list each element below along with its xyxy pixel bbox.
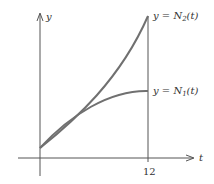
tick-12: 12 [143, 166, 156, 177]
label-n2: y = N2(t) [152, 10, 199, 23]
curve-n2 [40, 16, 148, 148]
y-axis-label: y [45, 11, 52, 22]
label-n1: y = N1(t) [152, 85, 199, 98]
chart: y t 12 y = N2(t) y = N1(t) [0, 0, 214, 184]
x-axis-label: t [199, 152, 204, 163]
